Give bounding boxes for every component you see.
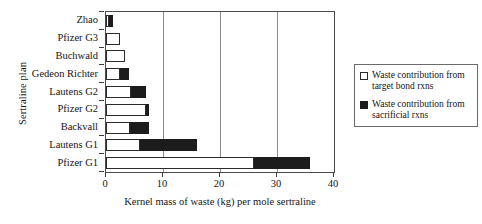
bar-segment-target-bond bbox=[106, 139, 140, 151]
x-axis-title: Kernel mass of waste (kg) per mole sertr… bbox=[60, 196, 380, 207]
x-axis-tick-label: 40 bbox=[318, 178, 348, 189]
open-square-icon bbox=[360, 72, 368, 80]
legend-item-target-bond: Waste contribution from target bond rxns bbox=[360, 70, 473, 92]
bar-segment-target-bond bbox=[106, 68, 120, 80]
category-label: Pfizer G2 bbox=[14, 103, 98, 114]
bar-segment-target-bond bbox=[106, 122, 130, 134]
x-axis-tick bbox=[162, 172, 163, 177]
x-axis-tick-labels: 010203040 bbox=[105, 178, 335, 192]
x-axis-tick-label: 10 bbox=[147, 178, 177, 189]
legend: Waste contribution from target bond rxns… bbox=[354, 64, 478, 127]
y-axis-tick bbox=[99, 29, 104, 30]
gridline bbox=[277, 12, 278, 172]
bar-segment-sacrificial bbox=[130, 122, 149, 134]
legend-item-sacrificial: Waste contribution from sacrificial rxns bbox=[360, 99, 473, 121]
category-label: Buchwald bbox=[14, 50, 98, 61]
category-label: Lautens G2 bbox=[14, 86, 98, 97]
x-axis-tick bbox=[219, 172, 220, 177]
bar-segment-target-bond bbox=[106, 104, 146, 116]
legend-label: Waste contribution from target bond rxns bbox=[372, 70, 473, 92]
y-axis-tick bbox=[99, 153, 104, 154]
y-axis-tick bbox=[99, 47, 104, 48]
x-axis-tick-label: 0 bbox=[90, 178, 120, 189]
gridline bbox=[220, 12, 221, 172]
category-label: Zhao bbox=[14, 14, 98, 25]
x-axis-tick-label: 30 bbox=[261, 178, 291, 189]
y-axis-ticks bbox=[99, 11, 105, 173]
bar-segment-sacrificial bbox=[131, 86, 146, 98]
bar-chart: Sertraline plan ZhaoPfizer G3BuchwaldGed… bbox=[0, 0, 482, 224]
bar-segment-target-bond bbox=[106, 33, 120, 45]
bar-segment-sacrificial bbox=[140, 139, 197, 151]
bar-segment-sacrificial bbox=[254, 157, 310, 169]
category-label: Gedeon Richter bbox=[14, 68, 98, 79]
y-axis-tick bbox=[99, 82, 104, 83]
x-axis-tick bbox=[333, 172, 334, 177]
x-axis-tick-label: 20 bbox=[204, 178, 234, 189]
filled-square-icon bbox=[360, 101, 368, 109]
y-axis-tick bbox=[99, 171, 104, 172]
category-label: Lautens G1 bbox=[14, 139, 98, 150]
y-axis-tick bbox=[99, 100, 104, 101]
bar-segment-target-bond bbox=[106, 50, 125, 62]
bar-segment-sacrificial bbox=[120, 68, 129, 80]
bar-segment-target-bond bbox=[106, 86, 131, 98]
y-axis-tick bbox=[99, 118, 104, 119]
category-label: Backvall bbox=[14, 121, 98, 132]
category-label: Pfizer G3 bbox=[14, 32, 98, 43]
plot-area bbox=[105, 11, 335, 173]
x-axis-tick bbox=[276, 172, 277, 177]
bar-segment-sacrificial bbox=[146, 104, 149, 116]
bar-segment-sacrificial bbox=[109, 15, 114, 27]
y-axis-tick bbox=[99, 64, 104, 65]
bar-segment-target-bond bbox=[106, 157, 254, 169]
y-axis-tick bbox=[99, 135, 104, 136]
category-label: Pfizer G1 bbox=[14, 157, 98, 168]
x-axis-tick bbox=[105, 172, 106, 177]
y-axis-tick bbox=[99, 11, 104, 12]
y-axis-category-labels: ZhaoPfizer G3BuchwaldGedeon RichterLaute… bbox=[18, 11, 102, 171]
legend-label: Waste contribution from sacrificial rxns bbox=[372, 99, 473, 121]
